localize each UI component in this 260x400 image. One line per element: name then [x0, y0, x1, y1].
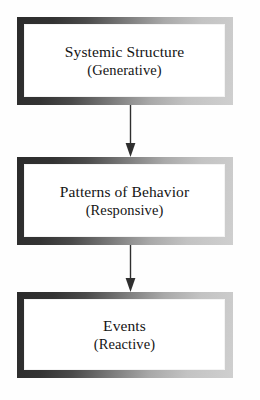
diagram-canvas: Systemic Structure (Generative) Patterns…: [0, 0, 260, 400]
node-primary-label: Patterns of Behavior: [60, 182, 189, 201]
node-face: Patterns of Behavior (Responsive): [24, 164, 225, 237]
connector-structure-to-patterns: [124, 105, 137, 158]
node-secondary-label: (Reactive): [94, 335, 155, 354]
connector-patterns-to-events: [124, 245, 137, 293]
node-face: Events (Reactive): [24, 299, 225, 370]
node-patterns-of-behavior[interactable]: Patterns of Behavior (Responsive): [17, 157, 233, 245]
node-face: Systemic Structure (Generative): [24, 24, 225, 97]
node-primary-label: Systemic Structure: [65, 42, 184, 61]
vertical-flow-diagram: Systemic Structure (Generative) Patterns…: [0, 0, 260, 400]
node-secondary-label: (Generative): [87, 61, 161, 80]
down-arrow-icon: [124, 105, 137, 158]
node-primary-label: Events: [103, 316, 146, 335]
node-systemic-structure[interactable]: Systemic Structure (Generative): [17, 17, 233, 105]
node-secondary-label: (Responsive): [86, 201, 164, 220]
node-events[interactable]: Events (Reactive): [17, 292, 233, 378]
down-arrow-icon: [124, 245, 137, 293]
